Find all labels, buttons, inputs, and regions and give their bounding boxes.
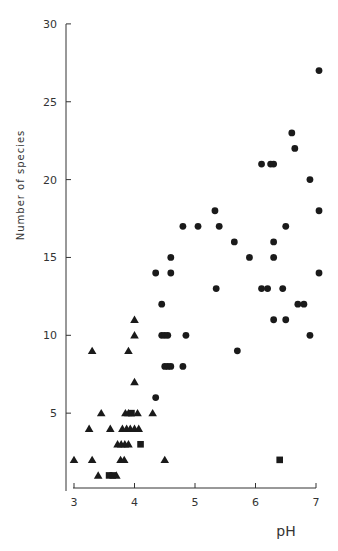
y-ticks: 51015202530 <box>43 18 71 420</box>
circle-marker <box>258 285 265 292</box>
circle-marker <box>195 223 202 230</box>
triangle-marker <box>130 316 139 323</box>
y-tick-label: 25 <box>43 96 57 109</box>
triangle-marker <box>88 456 97 463</box>
circle-marker <box>279 285 286 292</box>
triangle-marker <box>70 456 79 463</box>
x-ticks: 34567 <box>71 483 320 509</box>
circle-marker <box>316 207 323 214</box>
y-tick-label: 15 <box>43 251 57 264</box>
triangle-marker <box>130 331 139 338</box>
circle-marker <box>270 238 277 245</box>
circle-marker <box>180 223 187 230</box>
circle-marker <box>158 301 165 308</box>
circle-marker <box>152 394 159 401</box>
circle-marker <box>258 161 265 168</box>
axes <box>66 24 316 491</box>
circle-marker <box>291 145 298 152</box>
circle-marker <box>288 129 295 136</box>
x-axis-title: pH <box>276 523 295 539</box>
square-marker <box>109 472 116 479</box>
circle-marker <box>270 254 277 261</box>
triangle-marker <box>160 456 169 463</box>
circle-marker <box>213 285 220 292</box>
circle-marker <box>307 176 314 183</box>
circle-marker <box>270 316 277 323</box>
circle-marker <box>270 161 277 168</box>
circle-marker <box>164 332 171 339</box>
circle-marker <box>282 223 289 230</box>
x-tick-label: 7 <box>313 496 320 509</box>
circle-marker <box>234 347 241 354</box>
circle-marker <box>152 270 159 277</box>
square-marker <box>128 410 135 417</box>
circle-marker <box>167 270 174 277</box>
triangle-marker <box>97 409 106 416</box>
circle-marker <box>167 254 174 261</box>
circle-marker <box>264 285 271 292</box>
circle-marker <box>282 316 289 323</box>
y-tick-label: 5 <box>50 407 57 420</box>
data-points <box>70 67 323 479</box>
y-tick-label: 10 <box>43 329 57 342</box>
circle-marker <box>301 301 308 308</box>
y-tick-label: 20 <box>43 174 57 187</box>
y-tick-label: 30 <box>43 18 57 31</box>
circle-marker <box>212 207 219 214</box>
circle-marker <box>246 254 253 261</box>
x-tick-label: 3 <box>71 496 78 509</box>
square-marker <box>137 441 144 448</box>
triangle-marker <box>130 378 139 385</box>
circle-marker <box>180 363 187 370</box>
circle-marker <box>294 301 301 308</box>
circle-marker <box>307 332 314 339</box>
scatter-chart: 51015202530 34567 Number of species pH <box>0 0 338 551</box>
x-tick-label: 4 <box>131 496 138 509</box>
triangle-marker <box>124 347 133 354</box>
square-marker <box>276 457 283 464</box>
y-axis-title: Number of species <box>15 130 26 241</box>
circle-marker <box>216 223 223 230</box>
triangle-marker <box>85 425 94 432</box>
circle-marker <box>316 270 323 277</box>
x-tick-label: 6 <box>252 496 259 509</box>
triangle-marker <box>106 425 115 432</box>
circle-marker <box>167 363 174 370</box>
triangle-marker <box>88 347 97 354</box>
x-tick-label: 5 <box>192 496 199 509</box>
triangle-marker <box>94 471 103 478</box>
triangle-marker <box>148 409 157 416</box>
circle-marker <box>231 238 238 245</box>
circle-marker <box>316 67 323 74</box>
circle-marker <box>183 332 190 339</box>
